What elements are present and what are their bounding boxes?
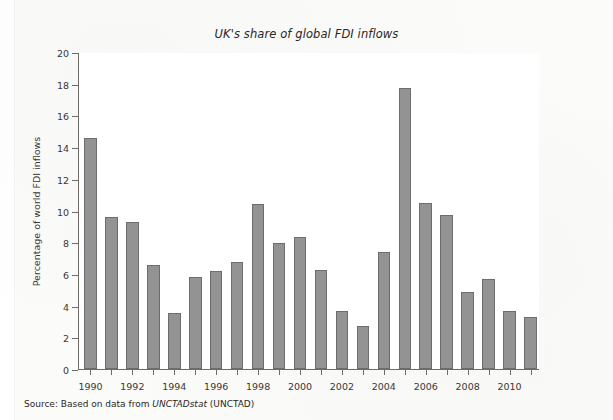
source-italic: UNCTADstat	[152, 399, 207, 409]
x-tick-mark	[300, 370, 301, 375]
x-tick-mark	[237, 370, 238, 375]
bar-1991	[105, 217, 118, 369]
x-tick-label-2010: 2010	[497, 381, 521, 392]
x-tick-mark	[321, 370, 322, 375]
x-tick-mark	[468, 370, 469, 375]
y-tick-label: 0	[63, 365, 69, 376]
source-suffix: (UNCTAD)	[207, 399, 254, 409]
y-tick-mark	[72, 148, 78, 149]
y-tick-mark	[72, 338, 78, 339]
bar-2009	[482, 279, 495, 369]
bar-1999	[273, 243, 286, 369]
x-tick-label-2006: 2006	[414, 381, 438, 392]
y-tick-mark	[72, 180, 78, 181]
y-tick-label: 14	[57, 143, 69, 154]
x-tick-label-2000: 2000	[288, 381, 312, 392]
y-tick-mark	[72, 116, 78, 117]
y-tick-label: 16	[57, 111, 69, 122]
x-tick-mark	[531, 370, 532, 375]
x-tick-mark	[216, 370, 217, 375]
x-tick-mark	[132, 370, 133, 375]
y-tick-label: 6	[63, 269, 69, 280]
x-tick-label-1996: 1996	[204, 381, 228, 392]
x-tick-mark	[447, 370, 448, 375]
x-tick-label-1992: 1992	[120, 381, 144, 392]
bar-2002	[336, 311, 349, 369]
y-axis-title: Percentage of world FDI inflows	[30, 53, 44, 370]
y-tick-label: 20	[57, 48, 69, 59]
plot-area: 02468101214161820 1990199219941996199820…	[78, 53, 539, 370]
y-tick-mark	[72, 370, 78, 371]
x-tick-label-2004: 2004	[372, 381, 396, 392]
x-tick-mark	[342, 370, 343, 375]
bar-1997	[231, 262, 244, 369]
y-tick-mark	[72, 275, 78, 276]
x-tick-mark	[90, 370, 91, 375]
y-tick-label: 18	[57, 79, 69, 90]
x-tick-mark	[363, 370, 364, 375]
x-tick-mark	[153, 370, 154, 375]
bar-1992	[126, 222, 139, 369]
x-tick-label-1994: 1994	[162, 381, 186, 392]
y-tick-label: 8	[63, 238, 69, 249]
bar-1993	[147, 265, 160, 369]
x-tick-mark	[195, 370, 196, 375]
bar-1994	[168, 313, 181, 369]
chart-title: UK's share of global FDI inflows	[0, 27, 613, 41]
y-axis-title-text: Percentage of world FDI inflows	[32, 137, 43, 287]
bar-1990	[84, 138, 97, 369]
x-tick-mark	[405, 370, 406, 375]
y-axis-line	[78, 53, 79, 370]
x-tick-label-2008: 2008	[456, 381, 480, 392]
bar-2007	[440, 215, 453, 369]
x-tick-mark	[174, 370, 175, 375]
bar-1995	[189, 277, 202, 369]
bar-2006	[419, 203, 432, 369]
x-tick-label-2002: 2002	[330, 381, 354, 392]
bar-2001	[315, 270, 328, 369]
source-prefix: Source: Based on data from	[24, 399, 152, 409]
x-tick-mark	[489, 370, 490, 375]
x-tick-mark	[426, 370, 427, 375]
x-tick-mark	[258, 370, 259, 375]
x-tick-mark	[111, 370, 112, 375]
x-tick-label-1998: 1998	[246, 381, 270, 392]
y-tick-mark	[72, 243, 78, 244]
y-tick-label: 10	[57, 206, 69, 217]
y-tick-mark	[72, 212, 78, 213]
y-tick-mark	[72, 85, 78, 86]
x-tick-mark	[384, 370, 385, 375]
bar-1996	[210, 271, 223, 369]
bar-2008	[461, 292, 474, 369]
bar-2000	[294, 237, 307, 369]
bar-2005	[399, 88, 412, 369]
bar-2004	[378, 252, 391, 369]
bar-2010	[503, 311, 516, 369]
y-tick-label: 2	[63, 333, 69, 344]
bar-2003	[357, 326, 370, 369]
y-tick-mark	[72, 53, 78, 54]
source-note: Source: Based on data from UNCTADstat (U…	[24, 399, 254, 409]
y-tick-label: 4	[63, 301, 69, 312]
x-axis-line	[78, 369, 539, 370]
x-tick-mark	[279, 370, 280, 375]
x-tick-label-1990: 1990	[78, 381, 102, 392]
y-tick-label: 12	[57, 174, 69, 185]
bar-2011	[524, 317, 537, 369]
y-tick-mark	[72, 307, 78, 308]
bar-1998	[252, 204, 265, 369]
x-tick-mark	[510, 370, 511, 375]
